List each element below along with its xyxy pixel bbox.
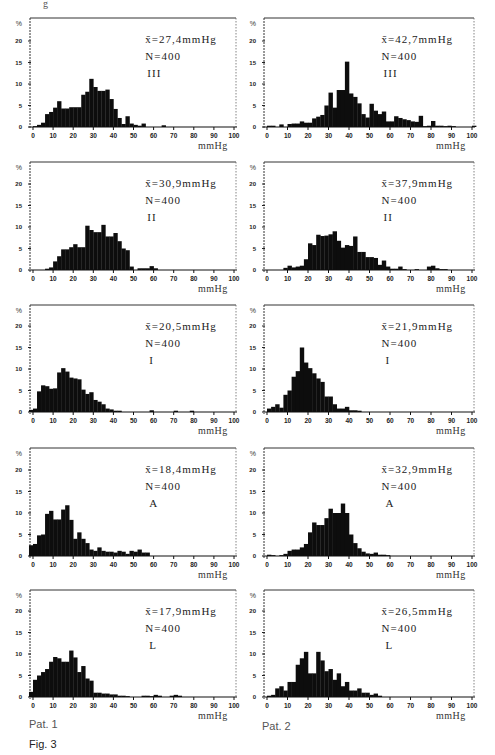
y-tick-label: 20: [249, 608, 256, 614]
x-tick-label: 90: [448, 702, 456, 709]
y-tick-label-zero: 0: [253, 694, 257, 700]
histogram-bar: [267, 696, 271, 697]
histogram-bar: [271, 695, 275, 697]
sample-size: N=400: [382, 621, 418, 636]
histogram-bar: [349, 691, 353, 697]
histogram-bar: [337, 673, 341, 697]
histogram-plot: 010203040506070809010051015200%: [0, 0, 495, 755]
histogram-bar: [324, 671, 328, 697]
histogram-bar: [308, 673, 312, 697]
y-tick-label: 5: [253, 673, 257, 679]
mean-value: x̄=26,5mmHg: [382, 604, 454, 619]
histogram-bar: [275, 688, 279, 697]
x-unit-label: mmHg: [436, 710, 466, 721]
histogram-bar: [333, 680, 337, 697]
histogram-bar: [378, 696, 382, 697]
x-tick-label: 50: [366, 702, 374, 709]
y-unit-label: %: [250, 592, 256, 599]
histogram-bar: [361, 693, 365, 697]
histogram-bar: [292, 682, 296, 697]
histogram-bar: [296, 665, 300, 697]
histogram-bar: [320, 660, 324, 697]
x-tick-label: 80: [427, 702, 435, 709]
histogram-bar: [329, 669, 333, 697]
histogram-bar: [370, 695, 374, 697]
histogram-bar: [316, 652, 320, 697]
x-tick-label: 40: [345, 702, 353, 709]
y-tick-label: 15: [249, 630, 256, 636]
histogram-bar: [300, 658, 304, 697]
x-tick-label: 20: [304, 702, 312, 709]
histogram-bar: [345, 682, 349, 697]
condition-label: L: [386, 638, 394, 653]
x-tick-label: 70: [407, 702, 415, 709]
histogram-bar: [357, 688, 361, 697]
x-tick-label: 10: [284, 702, 292, 709]
column-label-pat-2: Pat. 2: [262, 720, 291, 732]
histogram-bar: [279, 686, 283, 697]
column-label-pat-1: Pat. 1: [29, 718, 58, 730]
histogram-bar: [365, 693, 369, 697]
histogram-bar: [283, 691, 287, 697]
histogram-bar: [288, 682, 292, 697]
figure-caption: Fig. 3: [29, 738, 57, 750]
y-tick-label: 10: [249, 651, 256, 657]
histogram-bar: [312, 673, 316, 697]
histogram-bar: [341, 686, 345, 697]
histogram-bar: [374, 694, 378, 697]
histogram-bar: [353, 691, 357, 697]
x-tick-label: 0: [265, 702, 269, 709]
histogram-bar: [304, 652, 308, 697]
x-tick-label: 30: [325, 702, 333, 709]
x-tick-label: 100: [467, 702, 478, 709]
x-tick-label: 60: [386, 702, 394, 709]
